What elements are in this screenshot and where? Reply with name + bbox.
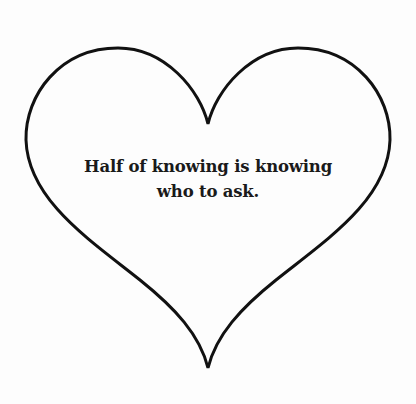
quote-text: Half of knowing is knowing who to ask. [0, 154, 416, 204]
quote-line-2: who to ask. [0, 179, 416, 204]
quote-line-1: Half of knowing is knowing [0, 154, 416, 179]
